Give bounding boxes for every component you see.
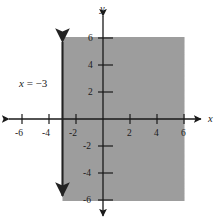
y-tick-label--4: -4	[83, 169, 91, 179]
x-axis-label: x	[208, 114, 213, 125]
boundary-line-label: x = −3	[19, 78, 47, 89]
x-tick-label-2: 2	[127, 129, 132, 139]
x-tick-label-6: 6	[181, 129, 186, 139]
y-tick-label-2: 2	[88, 88, 93, 98]
x-tick-label--6: -6	[15, 129, 23, 139]
y-axis-label: y	[100, 4, 105, 15]
boundary-label-value: = −3	[24, 77, 47, 89]
inequality-graph-figure: y x -6 -4 -2 2 4 6 6 4 2 -2 -4 -6 x = −3	[0, 0, 221, 222]
coordinate-plane-svg	[0, 0, 221, 222]
x-tick-label--2: -2	[69, 129, 77, 139]
y-tick-label-6: 6	[88, 34, 93, 44]
x-tick-label-4: 4	[154, 129, 159, 139]
y-tick-label--2: -2	[83, 142, 91, 152]
y-tick-label-4: 4	[88, 61, 93, 71]
y-tick-label--6: -6	[83, 196, 91, 206]
x-tick-label--4: -4	[42, 129, 50, 139]
